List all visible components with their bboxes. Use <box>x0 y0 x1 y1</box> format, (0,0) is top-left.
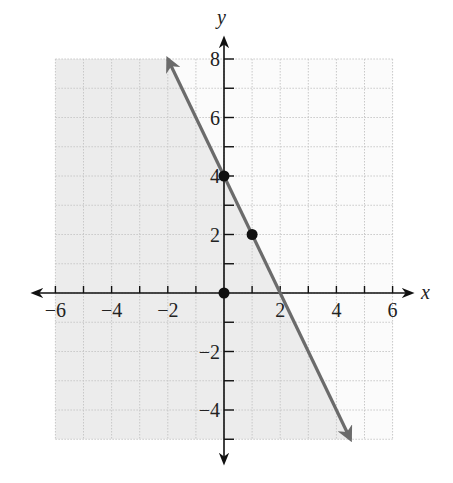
y-axis-label: y <box>215 6 226 29</box>
data-point <box>219 171 230 182</box>
coordinate-plane-chart: −6−4−2246−4−22468 x y <box>0 0 453 483</box>
x-tick-label: −6 <box>45 299 66 321</box>
y-tick-label: −4 <box>199 399 220 421</box>
x-tick-label: −2 <box>157 299 178 321</box>
y-tick-label: −2 <box>199 341 220 363</box>
x-axis-label: x <box>420 281 430 303</box>
y-tick-label: 6 <box>210 107 220 129</box>
data-point <box>219 288 230 299</box>
y-tick-label: 2 <box>210 224 220 246</box>
x-tick-label: 6 <box>388 299 398 321</box>
x-tick-label: 4 <box>331 299 341 321</box>
y-tick-label: 8 <box>210 48 220 70</box>
data-point <box>247 229 258 240</box>
x-tick-label: −4 <box>101 299 122 321</box>
